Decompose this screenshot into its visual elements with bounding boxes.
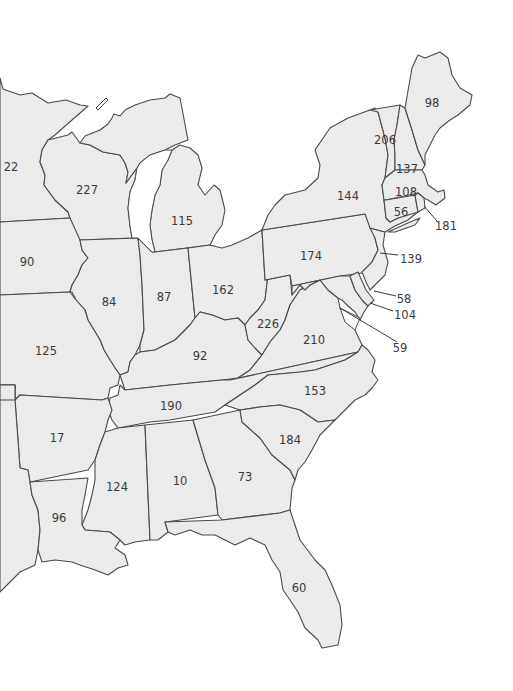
isle-royale: [96, 98, 108, 110]
state-label-de: 58: [397, 292, 412, 306]
state-label-nj: 139: [400, 252, 422, 266]
state-label-me: 98: [425, 96, 440, 110]
state-label-in: 87: [157, 290, 172, 304]
state-label-sc: 184: [279, 433, 301, 447]
state-label-md: 104: [394, 308, 416, 322]
state-label-ar: 17: [50, 431, 65, 445]
state-label-ia: 90: [20, 255, 35, 269]
state-label-ny: 144: [337, 189, 359, 203]
state-label-mn: 22: [4, 160, 19, 174]
state-label-nh: 137: [396, 162, 418, 176]
state-label-tn: 190: [160, 399, 182, 413]
state-label-ri: 181: [435, 219, 457, 233]
state-label-wv: 226: [257, 317, 279, 331]
state-ok-partial: [0, 385, 15, 400]
state-label-dc: 59: [393, 341, 408, 355]
state-label-pa: 174: [300, 249, 322, 263]
state-label-wi: 227: [76, 183, 98, 197]
state-label-nc: 153: [304, 384, 326, 398]
state-label-mi: 115: [171, 214, 193, 228]
state-label-oh: 162: [212, 283, 234, 297]
eastern-us-map: 2222711590848716212592226210174144982061…: [0, 0, 513, 691]
leader-line-de: [374, 291, 396, 296]
state-label-ga: 73: [238, 470, 253, 484]
state-label-ky: 92: [193, 349, 208, 363]
state-label-ct: 56: [394, 205, 409, 219]
state-label-ms: 124: [106, 480, 128, 494]
state-label-fl: 60: [292, 581, 307, 595]
leader-line-md: [370, 303, 393, 311]
state-label-al: 10: [173, 474, 188, 488]
state-label-va: 210: [303, 333, 325, 347]
state-label-la: 96: [52, 511, 67, 525]
state-fl[interactable]: [165, 510, 342, 648]
state-label-il: 84: [102, 295, 117, 309]
state-label-ma: 108: [395, 185, 417, 199]
state-label-vt: 206: [374, 133, 396, 147]
state-label-mo: 125: [35, 344, 57, 358]
